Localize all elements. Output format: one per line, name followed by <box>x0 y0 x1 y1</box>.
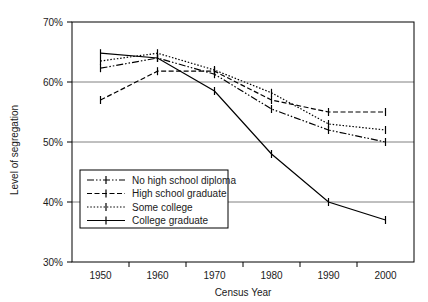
legend-label: College graduate <box>132 215 209 226</box>
y-tick-label-60: 60% <box>43 77 63 88</box>
chart-background <box>0 0 428 302</box>
y-axis-title: Level of segregation <box>9 105 20 195</box>
y-tick-label-30: 30% <box>43 257 63 268</box>
chart-legend: No high school diplomaHigh school gradua… <box>80 170 236 228</box>
chart-container: 70%60%50%40%30% 195019601970198019902000… <box>0 0 428 302</box>
x-tick-label-1950: 1950 <box>89 270 112 281</box>
x-tick-label-1970: 1970 <box>203 270 226 281</box>
legend-label: No high school diploma <box>132 175 236 186</box>
y-tick-label-70: 70% <box>43 17 63 28</box>
line-chart: 70%60%50%40%30% 195019601970198019902000… <box>0 0 428 302</box>
x-tick-label-2000: 2000 <box>374 270 397 281</box>
y-tick-label-50: 50% <box>43 137 63 148</box>
x-tick-label-1990: 1990 <box>317 270 340 281</box>
legend-label: High school graduate <box>132 188 227 199</box>
legend-label: Some college <box>132 202 193 213</box>
x-axis-title: Census Year <box>215 287 272 298</box>
y-tick-label-40: 40% <box>43 197 63 208</box>
x-tick-label-1960: 1960 <box>146 270 169 281</box>
x-tick-label-1980: 1980 <box>260 270 283 281</box>
